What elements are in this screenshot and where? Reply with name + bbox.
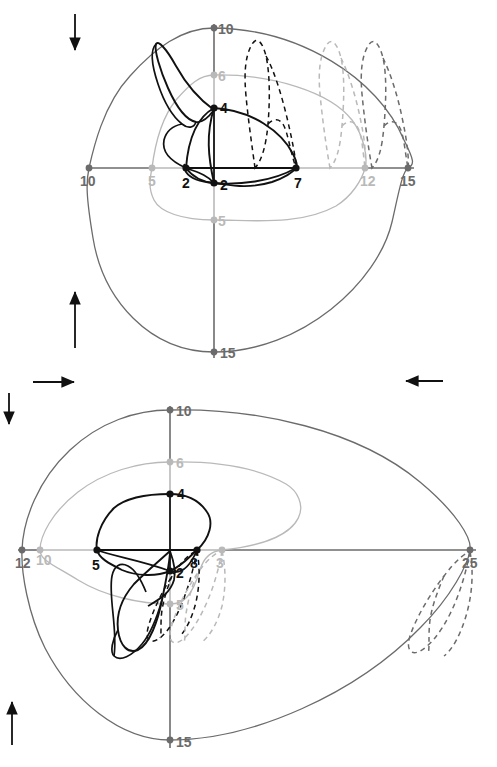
bottom-panel-axes xyxy=(18,406,476,748)
marker-bottom-dark-down xyxy=(167,737,174,744)
marker-bottom-light-right xyxy=(219,547,226,554)
marker-bottom-black-left xyxy=(93,546,100,553)
marker-top-light-right xyxy=(362,165,369,172)
marker-bottom-dark-up xyxy=(167,407,174,414)
marker-top-black-down xyxy=(210,179,217,186)
marker-bottom-dark-left xyxy=(19,547,26,554)
label-top-dark-left: 10 xyxy=(80,173,96,189)
marker-bottom-light-down xyxy=(167,601,174,608)
top-black-dashed-lobes xyxy=(245,41,296,168)
label-bottom-dark-left: 12 xyxy=(15,555,31,571)
marker-top-black-up xyxy=(210,104,217,111)
marker-bottom-black-up xyxy=(166,490,173,497)
label-top-dark-right: 15 xyxy=(400,173,416,189)
marker-top-dark-right xyxy=(405,165,412,172)
marker-top-black-right xyxy=(292,164,299,171)
label-top-black-left: 2 xyxy=(182,175,190,191)
top-panel-axes xyxy=(89,24,414,358)
label-bottom-black-right: 8 xyxy=(190,555,198,571)
label-bottom-black-up: 4 xyxy=(177,486,185,502)
label-bottom-black-left: 5 xyxy=(92,557,100,573)
label-top-light-up: 6 xyxy=(218,68,226,84)
bottom-panel: 10 6 4 12 10 5 2 8 3 5 15 25 xyxy=(9,393,478,750)
label-top-dark-down: 15 xyxy=(220,345,236,361)
marker-top-dark-up xyxy=(211,25,218,32)
label-bottom-dark-down: 15 xyxy=(176,734,192,750)
bottom-black-curve xyxy=(97,494,211,658)
marker-top-light-left xyxy=(149,165,156,172)
marker-top-dark-left xyxy=(86,165,93,172)
label-bottom-dark-right: 25 xyxy=(462,555,478,571)
figure-canvas: 10 6 4 10 5 2 2 7 5 12 15 15 xyxy=(0,0,497,767)
top-light-gray-dashed-lobes xyxy=(319,42,365,168)
top-panel: 10 6 4 10 5 2 2 7 5 12 15 15 xyxy=(33,14,443,382)
label-top-light-right: 12 xyxy=(360,173,376,189)
label-bottom-black-down: 2 xyxy=(176,565,184,581)
label-bottom-light-left: 10 xyxy=(36,552,52,568)
bottom-dark-gray-curve xyxy=(22,410,470,740)
bottom-panel-markers xyxy=(19,407,474,744)
label-top-dark-up: 10 xyxy=(218,21,234,37)
label-top-light-left: 5 xyxy=(148,173,156,189)
label-top-black-down: 2 xyxy=(220,177,228,193)
marker-top-light-down xyxy=(211,217,218,224)
marker-top-black-left xyxy=(182,164,189,171)
scientific-figure-svg: 10 6 4 10 5 2 2 7 5 12 15 15 xyxy=(0,0,497,767)
label-top-black-right: 7 xyxy=(294,175,302,191)
marker-top-dark-down xyxy=(211,349,218,356)
marker-top-light-up xyxy=(211,72,218,79)
marker-bottom-black-down xyxy=(166,567,173,574)
marker-bottom-black-right xyxy=(193,546,200,553)
label-top-light-down: 5 xyxy=(218,213,226,229)
marker-bottom-light-up xyxy=(167,459,174,466)
marker-bottom-dark-right xyxy=(467,547,474,554)
top-light-gray-curve xyxy=(150,75,366,221)
label-bottom-light-up: 6 xyxy=(176,455,184,471)
top-panel-markers xyxy=(86,25,412,356)
label-bottom-light-right: 3 xyxy=(216,555,224,571)
label-top-black-up: 4 xyxy=(220,100,228,116)
label-bottom-light-down: 5 xyxy=(176,597,184,613)
label-bottom-dark-up: 10 xyxy=(176,403,192,419)
top-dark-gray-dashed-lobes xyxy=(361,42,408,168)
